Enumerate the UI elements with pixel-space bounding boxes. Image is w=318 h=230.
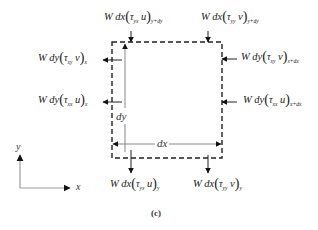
eval: y xyxy=(239,185,241,191)
tau-sub: yy xyxy=(223,185,228,191)
label-left-lower: W dy(τxx u)x xyxy=(38,94,87,110)
eval: x+dx xyxy=(287,58,298,64)
label-right-upper: W dy(τxy v)x+dx xyxy=(241,51,299,67)
eval: y+dy xyxy=(151,18,162,24)
tau-sub: yy xyxy=(231,18,236,24)
tau-sub: yx xyxy=(140,185,145,191)
label-bottom-left: W dx(τyx u)y xyxy=(110,178,159,194)
dy-label: dy xyxy=(116,108,126,124)
coef: W dy xyxy=(241,51,262,62)
tau-sub: yx xyxy=(134,18,139,24)
coef: W dx xyxy=(110,178,131,189)
coef: W dx xyxy=(201,11,222,22)
label-top-left: W dx(τyx u)y+dy xyxy=(104,11,162,27)
eval: x+dx xyxy=(290,101,301,107)
tau-sub: xy xyxy=(271,58,276,64)
tau-sub: xx xyxy=(273,101,278,107)
coef: W dx xyxy=(104,11,125,22)
label-right-lower: W dy(τxx u)x+dx xyxy=(243,94,301,110)
coef: W dy xyxy=(243,94,264,105)
y-axis-label: y xyxy=(16,141,20,152)
eval: x xyxy=(85,101,87,107)
x-axis-label: x xyxy=(76,181,80,192)
coef: W dx xyxy=(193,178,214,189)
figure-caption: (c) xyxy=(151,208,161,218)
diagram-canvas xyxy=(0,0,318,230)
dx-label: dx xyxy=(155,137,169,149)
label-left-upper: W dy(τxy v)x xyxy=(38,52,87,68)
coef: W dy xyxy=(38,94,59,105)
tau-sub: xy xyxy=(68,59,73,65)
eval: y+dy xyxy=(247,18,258,24)
label-top-right: W dx(τyy v)y+dy xyxy=(201,11,259,27)
tau-sub: xx xyxy=(68,101,73,107)
eval: x xyxy=(84,59,86,65)
coef: W dy xyxy=(38,52,59,63)
label-bottom-right: W dx(τyy v)y xyxy=(193,178,242,194)
eval: y xyxy=(157,185,159,191)
